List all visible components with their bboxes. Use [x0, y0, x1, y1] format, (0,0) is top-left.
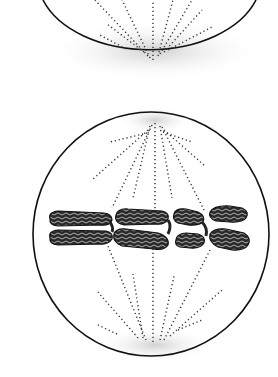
chromosome-1-bottom [50, 230, 113, 245]
chromosome-1-top [50, 211, 112, 226]
chromosome-3b-bottom [210, 229, 250, 250]
chromosome-2-bottom [114, 229, 169, 250]
bottom-cell [33, 106, 269, 363]
chromosome-3b-top [210, 206, 248, 222]
top-cell [43, 0, 265, 78]
chromosome-2-top [116, 209, 169, 225]
upper-spindle-fibers [92, 123, 205, 212]
mitosis-diagram [0, 0, 278, 377]
chromosomes [50, 206, 250, 250]
chromosome-3a-bottom [176, 233, 205, 248]
chromosome-3a-top [174, 209, 204, 225]
